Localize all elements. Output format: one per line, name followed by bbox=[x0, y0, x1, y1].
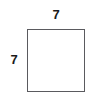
top-side-length-label: 7 bbox=[27, 8, 85, 21]
geometry-figure: 7 7 bbox=[0, 0, 93, 100]
left-side-length-label: 7 bbox=[4, 53, 24, 66]
square-shape bbox=[27, 29, 85, 92]
